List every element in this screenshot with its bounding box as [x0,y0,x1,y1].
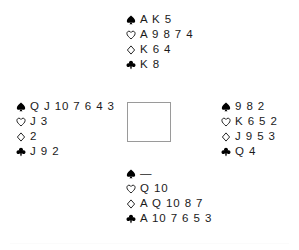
spade-icon [221,102,234,112]
hand-east-club-cards: Q 4 [234,146,256,158]
hand-west-diamond-row: 2 [16,129,115,144]
hand-west-heart-row: J 3 [16,114,115,129]
bottom-divider [10,243,289,244]
hand-north-heart-cards: A 9 8 7 4 [139,29,194,41]
heart-icon [16,117,29,127]
hand-east-spade-row: 9 8 2 [221,99,278,114]
diamond-icon [16,132,29,142]
hand-east-heart-cards: K 6 5 2 [234,116,278,128]
hand-south-heart-cards: Q 10 [139,183,169,195]
hand-north-diamond-row: K 6 4 [126,42,194,57]
hand-north-spade-cards: A K 5 [139,14,172,26]
hand-south-club-cards: A 10 7 6 5 3 [139,213,212,225]
hand-south-spade-cards: — [139,168,152,180]
club-icon [221,147,234,157]
hand-east-diamond-row: J 9 5 3 [221,129,278,144]
hand-east-heart-row: K 6 5 2 [221,114,278,129]
spade-icon [126,169,139,179]
hand-east-diamond-cards: J 9 5 3 [234,131,276,143]
center-square [127,102,171,142]
hand-west-club-row: J 9 2 [16,144,115,159]
hand-south-diamond-row: A Q 10 8 7 [126,196,212,211]
heart-icon [126,184,139,194]
club-icon [16,147,29,157]
hand-south-diamond-cards: A Q 10 8 7 [139,198,203,210]
spade-icon [126,15,139,25]
hand-west: Q J 10 7 6 4 3 J 3 2 J 9 2 [16,99,115,159]
hand-north-club-row: K 8 [126,57,194,72]
hand-west-heart-cards: J 3 [29,116,48,128]
hand-north-club-cards: K 8 [139,59,160,71]
hand-east-spade-cards: 9 8 2 [234,101,265,113]
hand-east-club-row: Q 4 [221,144,278,159]
club-icon [126,60,139,70]
heart-icon [221,117,234,127]
diamond-icon [126,199,139,209]
hand-south-spade-row: — [126,166,212,181]
hand-south-heart-row: Q 10 [126,181,212,196]
hand-west-spade-cards: Q J 10 7 6 4 3 [29,101,115,113]
hand-west-club-cards: J 9 2 [29,146,59,158]
hand-south-club-row: A 10 7 6 5 3 [126,211,212,226]
hand-south: — Q 10 A Q 10 8 7 A 10 7 6 5 3 [126,166,212,226]
diamond-icon [126,45,139,55]
heart-icon [126,30,139,40]
hand-west-diamond-cards: 2 [29,131,37,143]
hand-north-spade-row: A K 5 [126,12,194,27]
spade-icon [16,102,29,112]
club-icon [126,214,139,224]
hand-north-diamond-cards: K 6 4 [139,44,171,56]
diamond-icon [221,132,234,142]
hand-east: 9 8 2 K 6 5 2 J 9 5 3 Q 4 [221,99,278,159]
hand-west-spade-row: Q J 10 7 6 4 3 [16,99,115,114]
bridge-deal-diagram: A K 5 A 9 8 7 4 K 6 4 K 8 Q J 10 7 [0,0,299,250]
hand-north: A K 5 A 9 8 7 4 K 6 4 K 8 [126,12,194,72]
hand-north-heart-row: A 9 8 7 4 [126,27,194,42]
